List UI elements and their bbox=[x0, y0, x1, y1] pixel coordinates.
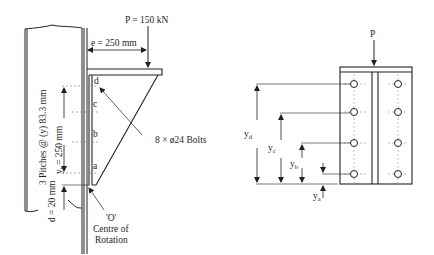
pitch-label: 3 Pitches @ (y) 83.3 mm bbox=[38, 89, 49, 185]
yb-label: yb bbox=[290, 159, 298, 170]
d-label: d = 20 mm bbox=[47, 180, 57, 222]
bolts-label: 8 × ø24 Bolts bbox=[155, 135, 207, 145]
extension-lines bbox=[256, 84, 350, 184]
bolt-centerlines bbox=[344, 74, 408, 184]
bolts-leader bbox=[100, 88, 142, 135]
yt-label: yt = 250 mm bbox=[54, 125, 65, 174]
bolt-row-label-c: c bbox=[93, 99, 97, 109]
rotation-leader bbox=[89, 188, 104, 210]
bolt-icon bbox=[395, 140, 402, 147]
right-figure: P bbox=[244, 29, 412, 202]
bracket-connection-diagram: d c b a P = 150 kN e = 250 mm yt = 250 m… bbox=[0, 0, 434, 255]
bolts bbox=[351, 81, 402, 178]
bolt-icon bbox=[351, 140, 358, 147]
yc-label: yc bbox=[268, 143, 276, 154]
yd-label: yd bbox=[244, 129, 253, 140]
rotation-label-o: 'O' bbox=[106, 213, 117, 223]
bolt-icon bbox=[395, 171, 402, 178]
bolt-icon bbox=[395, 81, 402, 88]
bracket bbox=[87, 69, 162, 186]
bolt-icon bbox=[351, 81, 358, 88]
rotation-label-line2: Centre of bbox=[93, 224, 129, 234]
left-figure: d c b a P = 150 kN e = 250 mm yt = 250 m… bbox=[25, 15, 207, 254]
load-label: P = 150 kN bbox=[125, 15, 168, 25]
bolt-icon bbox=[351, 109, 358, 116]
right-load-label: P bbox=[370, 29, 375, 39]
rotation-label-line3: Rotation bbox=[95, 235, 128, 245]
ya-label: ya bbox=[313, 191, 321, 202]
bolt-icon bbox=[395, 109, 402, 116]
bolt-icon bbox=[351, 171, 358, 178]
eccentricity-label: e = 250 mm bbox=[91, 38, 137, 48]
bolt-row-label-d: d bbox=[94, 76, 99, 86]
bolt-row-label-a: a bbox=[93, 161, 98, 171]
bolt-row-label-b: b bbox=[93, 129, 98, 139]
